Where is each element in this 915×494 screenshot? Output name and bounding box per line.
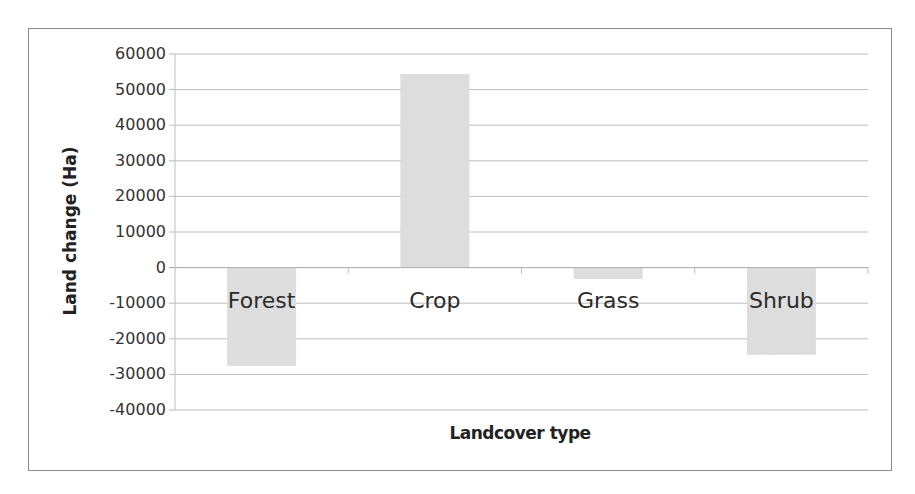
- y-tick-label: 60000: [66, 46, 166, 62]
- category-label: Crop: [348, 290, 522, 312]
- category-label: Forest: [175, 290, 349, 312]
- bar-forest: [227, 268, 296, 366]
- y-tick-label: -10000: [66, 295, 166, 311]
- y-tick-label: -30000: [66, 366, 166, 382]
- y-tick-label: 0: [66, 260, 166, 276]
- y-tick-label: 10000: [66, 224, 166, 240]
- plot-area: [0, 0, 915, 494]
- y-tick-label: 30000: [66, 153, 166, 169]
- y-tick-label: -40000: [66, 402, 166, 418]
- category-label: Shrub: [694, 290, 868, 312]
- y-tick-label: 20000: [66, 188, 166, 204]
- x-axis-label: Landcover type: [449, 423, 590, 443]
- category-label: Grass: [521, 290, 695, 312]
- y-tick-label: 40000: [66, 117, 166, 133]
- y-axis-label: Land change (Ha): [60, 146, 80, 315]
- bar-crop: [400, 74, 469, 268]
- bar-grass: [574, 268, 643, 279]
- y-tick-label: -20000: [66, 331, 166, 347]
- bars: [227, 74, 816, 366]
- y-tick-label: 50000: [66, 82, 166, 98]
